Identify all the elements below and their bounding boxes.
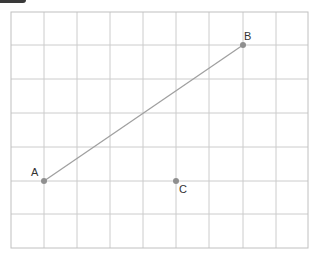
label-a: A — [31, 167, 38, 178]
point-b — [240, 42, 246, 48]
grid-diagram — [0, 0, 317, 254]
grid-lines — [11, 12, 308, 248]
grid-border — [11, 12, 308, 248]
label-c: C — [179, 184, 187, 195]
label-b: B — [244, 31, 251, 42]
point-a — [41, 178, 47, 184]
